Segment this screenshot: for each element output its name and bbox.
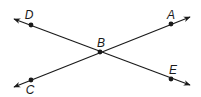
point-a-dot [169, 22, 174, 27]
point-e-dot [169, 77, 174, 82]
diagram-canvas: DABEC [0, 0, 201, 97]
point-b-dot [98, 50, 103, 55]
point-c-label: C [26, 83, 35, 97]
point-a-label: A [166, 8, 175, 22]
point-b-label: B [97, 36, 105, 50]
point-e-label: E [169, 63, 178, 77]
point-d-dot [29, 23, 34, 28]
point-c-dot [29, 78, 34, 83]
point-d-label: D [25, 8, 34, 22]
